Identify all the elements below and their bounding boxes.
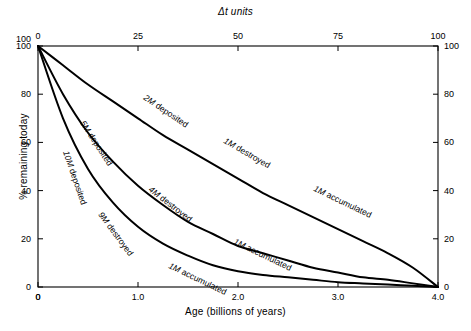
plot-area: 2M deposited1M destroyed1M accumulated5M… (0, 0, 471, 331)
curve-1 (38, 46, 438, 287)
curve-label: 1M accumulated (312, 183, 373, 219)
curve-label: 2M deposited (141, 92, 190, 130)
data-curves (38, 46, 438, 287)
curve-label: 4M destroyed (147, 184, 195, 224)
curve-label: 10M deposited (61, 149, 89, 206)
plot-frame (38, 46, 438, 287)
curve-label: 1M accumulated (167, 261, 228, 297)
curve-2 (38, 46, 438, 287)
curve-3 (38, 46, 438, 287)
curve-label: 1M destroyed (222, 135, 272, 170)
axis-ticks (38, 46, 438, 287)
curve-label: 9M destroyed (96, 210, 135, 258)
curve-label: 1M accumulated (232, 236, 293, 272)
figure: Δt units Age (billions of years) % remai… (0, 0, 471, 331)
